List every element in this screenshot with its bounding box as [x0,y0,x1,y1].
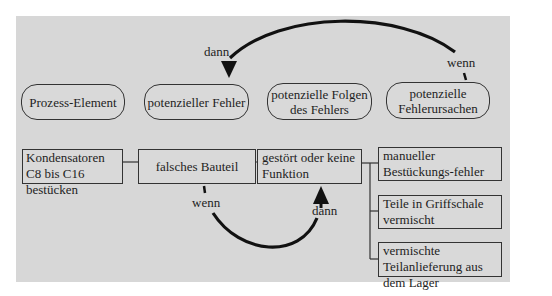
cause-box-3: vermischte Teilanlieferung aus dem Lager [378,242,502,277]
header-potential-failure: potenzieller Fehler [144,84,249,120]
header-potential-causes: potenzielle Fehlerursachen [386,82,490,119]
cause-box-1: manueller Bestückungs-fehler [378,147,502,181]
top-arrowhead-icon [221,61,237,78]
effect-box: gestört oder keine Funktion [257,149,362,184]
top-arrow-to-label: dann [204,44,229,60]
cause-box-2: Teile in Griffschale vermischt [378,195,502,229]
top-arrow-from-label: wenn [447,55,475,71]
bottom-arc-arrow [213,213,317,247]
header-process-element: Prozess-Element [21,84,125,120]
top-arc-arrow [230,21,455,58]
header-potential-effects: potenzielle Folgen des Fehlers [267,83,372,120]
bottom-arrow-to-label: dann [312,203,337,219]
process-step-box: Kondensatoren C8 bis C16 bestücken [22,149,123,184]
bottom-arrow-from-label: wenn [192,195,220,211]
failure-box: falsches Bauteil [138,149,256,184]
